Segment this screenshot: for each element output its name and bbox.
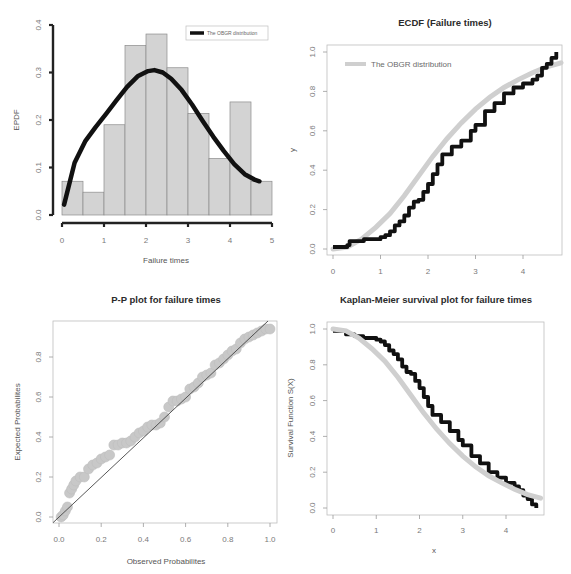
y-tick-label: 0.6 [308, 394, 317, 406]
y-tick-label: 1.0 [308, 323, 317, 335]
figure-canvas: 0.00.10.20.30.4 012345 Failure times EPD… [0, 0, 571, 574]
x-tick-label: 2 [144, 236, 149, 245]
x-tick-label: 2 [417, 526, 422, 535]
x-tick-label: 3 [473, 267, 478, 276]
y-tick-label: 0.3 [34, 66, 43, 78]
x-tick-label: 0.2 [96, 535, 108, 544]
histogram-bar [167, 68, 188, 215]
y-tick-label: 0.0 [308, 502, 317, 514]
x-tick-label: 1 [102, 236, 107, 245]
ecdf-panel: ECDF (Failure times) 0.00.20.40.60.81.0 … [288, 17, 562, 276]
pp-point [105, 450, 115, 460]
x-tick-label: 2 [426, 267, 431, 276]
histogram-legend: The OBGR distribution [186, 26, 268, 40]
ecdf-y-label: y [288, 148, 297, 152]
y-tick-label: 0.0 [34, 511, 43, 523]
x-tick-label: 1 [374, 526, 379, 535]
km-x-label: x [432, 546, 436, 555]
ecdf-empirical-step [333, 52, 556, 247]
y-tick-label: 0.8 [34, 351, 43, 363]
ecdf-y-axis: 0.00.20.40.60.81.0 [308, 46, 327, 255]
x-tick-label: 0 [331, 526, 336, 535]
pp-reference-line [53, 321, 268, 523]
x-tick-label: 4 [504, 526, 509, 535]
y-tick-label: 0.6 [308, 125, 317, 137]
histogram-bar [209, 158, 230, 215]
y-tick-label: 0.0 [308, 243, 317, 255]
x-tick-label: 3 [461, 526, 466, 535]
km-y-axis: 0.00.20.40.60.81.0 [308, 323, 327, 514]
y-tick-label: 0.2 [34, 114, 43, 126]
histogram-x-label: Failure times [143, 256, 189, 265]
x-tick-label: 0.0 [53, 535, 65, 544]
legend-label: The OBGR distribution [371, 60, 451, 69]
x-tick-label: 0.4 [138, 535, 150, 544]
y-tick-label: 0.8 [308, 85, 317, 97]
y-tick-label: 0.4 [34, 431, 43, 443]
legend-label: The OBGR distribution [207, 30, 258, 36]
pp-title: P-P plot for failure times [111, 294, 221, 305]
pp-y-axis: 0.00.20.40.60.8 [34, 351, 53, 523]
x-tick-label: 4 [521, 267, 526, 276]
x-tick-label: 4 [228, 236, 233, 245]
y-tick-label: 0.4 [308, 430, 317, 442]
histogram-bar [125, 45, 146, 215]
histogram-bar [146, 34, 167, 215]
y-tick-label: 0.4 [308, 164, 317, 176]
pp-point [160, 412, 170, 422]
y-tick-label: 0.6 [34, 391, 43, 403]
y-tick-label: 0.2 [34, 471, 43, 483]
pp-point [62, 502, 72, 512]
ecdf-x-axis: 01234 [331, 255, 526, 276]
histogram-panel: 0.00.10.20.30.4 012345 Failure times EPD… [12, 19, 275, 265]
km-y-label: Survival Function S(X) [286, 378, 295, 458]
histogram-x-axis: 012345 [60, 223, 275, 245]
histogram-bars [62, 34, 272, 215]
y-tick-label: 0.4 [34, 19, 43, 31]
y-tick-label: 0.8 [308, 359, 317, 371]
x-tick-label: 0 [331, 267, 336, 276]
ecdf-legend: The OBGR distribution [345, 60, 451, 69]
pp-point [265, 324, 275, 334]
y-tick-label: 0.0 [34, 209, 43, 221]
y-tick-label: 1.0 [308, 46, 317, 58]
pp-panel: P-P plot for failure times 0.00.20.40.60… [13, 294, 277, 566]
y-tick-label: 0.1 [34, 161, 43, 173]
histogram-bar [83, 192, 104, 215]
pp-points [56, 324, 275, 522]
histogram-bar [230, 102, 251, 215]
pp-x-label: Observed Probabilites [127, 557, 206, 566]
x-tick-label: 1.0 [264, 535, 276, 544]
histogram-y-label: EPDF [12, 109, 21, 130]
histogram-y-axis: 0.00.10.20.30.4 [34, 19, 53, 221]
x-tick-label: 0 [60, 236, 65, 245]
histogram-bar [251, 181, 272, 215]
km-title: Kaplan-Meier survival plot for failure t… [340, 294, 532, 305]
x-tick-label: 1 [378, 267, 383, 276]
pp-y-label: Expected Probabilites [13, 383, 22, 460]
x-tick-label: 0.6 [180, 535, 192, 544]
histogram-bar [104, 125, 125, 215]
km-x-axis: 01234 [331, 515, 509, 535]
pp-x-axis: 0.00.20.40.60.81.0 [53, 523, 276, 544]
x-tick-label: 5 [270, 236, 275, 245]
km-panel: Kaplan-Meier survival plot for failure t… [286, 294, 544, 555]
y-tick-label: 0.2 [308, 466, 317, 478]
x-tick-label: 3 [186, 236, 191, 245]
km-survival-step [333, 331, 536, 508]
ecdf-title: ECDF (Failure times) [398, 17, 491, 28]
y-tick-label: 0.2 [308, 203, 317, 215]
x-tick-label: 0.8 [222, 535, 234, 544]
